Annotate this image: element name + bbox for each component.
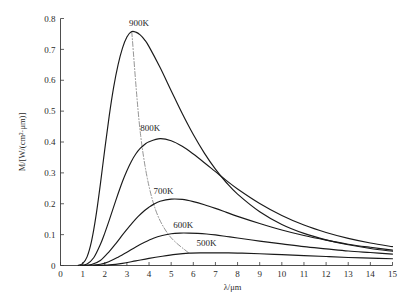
y-tick-label: 0.3	[44, 168, 56, 178]
y-tick-label: 0	[51, 261, 56, 271]
curve-label-700k: 700K	[153, 186, 174, 196]
chart-canvas: 012345678910111213141500.10.20.30.40.50.…	[0, 0, 414, 304]
series-group	[78, 31, 392, 265]
x-tick-label: 5	[169, 269, 174, 279]
x-tick-label: 0	[58, 269, 63, 279]
y-tick-label: 0.8	[44, 14, 56, 24]
x-tick-label: 3	[125, 269, 130, 279]
y-tick-label: 0.4	[44, 137, 56, 147]
series-curve-700k	[83, 199, 393, 265]
curve-label-800k: 800K	[140, 123, 161, 133]
x-tick-label: 8	[235, 269, 240, 279]
x-tick-label: 1	[80, 269, 85, 279]
y-tick-label: 0.2	[44, 199, 55, 209]
curve-label-600k: 600K	[173, 220, 194, 230]
x-tick-label: 7	[213, 269, 218, 279]
x-tick-label: 6	[191, 269, 196, 279]
x-tick-label: 14	[366, 269, 376, 279]
x-tick-label: 2	[103, 269, 108, 279]
x-tick-label: 4	[147, 269, 152, 279]
y-axis-ticks: 00.10.20.30.40.50.60.70.8	[44, 14, 64, 271]
curve-label-900k: 900K	[129, 18, 150, 28]
y-tick-label: 0.1	[44, 230, 55, 240]
y-tick-label: 0.7	[44, 45, 56, 55]
x-axis-title: λ/μm	[224, 282, 242, 292]
x-tick-label: 12	[322, 269, 331, 279]
series-curve-500k	[94, 253, 393, 266]
y-axis-title: M/[W/(cm²·μm)]	[17, 113, 27, 172]
axes	[61, 19, 393, 266]
x-tick-label: 15	[388, 269, 398, 279]
curve-annotations: 900K800K700K600K500K	[129, 18, 217, 248]
x-tick-label: 11	[300, 269, 309, 279]
series-curve-800k	[80, 139, 392, 266]
x-tick-label: 9	[257, 269, 262, 279]
y-tick-label: 0.5	[44, 106, 56, 116]
y-tick-label: 0.6	[44, 75, 56, 85]
blackbody-radiation-chart: 012345678910111213141500.10.20.30.40.50.…	[0, 0, 414, 304]
series-curve-900k	[78, 31, 392, 265]
x-tick-label: 13	[344, 269, 354, 279]
curve-label-500k: 500K	[197, 238, 218, 248]
x-tick-label: 10	[277, 269, 287, 279]
